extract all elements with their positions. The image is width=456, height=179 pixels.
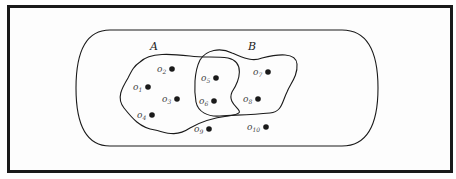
point-o3-label: o3	[162, 94, 171, 105]
point-o6-label: o6	[199, 96, 208, 107]
points-group: o1o2o3o4o5o6o7o8o9o10	[133, 64, 271, 135]
point-o10-dot	[263, 124, 269, 130]
point-o8-subscript: 8	[248, 98, 252, 105]
point-o8-label: o8	[243, 94, 252, 105]
point-o2-dot	[169, 66, 175, 72]
point-o6-subscript: 6	[204, 100, 208, 107]
set-b-label: B	[247, 40, 256, 53]
point-o9-dot	[206, 126, 212, 132]
point-o5-subscript: 5	[206, 77, 210, 84]
point-o7-dot	[265, 69, 271, 75]
point-o7-subscript: 7	[258, 71, 262, 78]
venn-diagram: A B o1o2o3o4o5o6o7o8o9o10	[0, 0, 456, 179]
point-o10-subscript: 10	[252, 126, 260, 133]
point-o7-label: o7	[253, 67, 262, 78]
point-o3-subscript: 3	[167, 98, 171, 105]
point-o4-subscript: 4	[141, 114, 146, 121]
point-o4-label: o4	[137, 110, 146, 121]
point-o4-dot	[149, 112, 155, 118]
point-o5-dot	[213, 75, 219, 81]
point-o1-dot	[145, 84, 151, 90]
set-a-boundary	[120, 54, 239, 133]
point-o3-dot	[174, 96, 180, 102]
point-o6-dot	[211, 98, 217, 104]
universe-boundary	[76, 30, 378, 146]
point-o1-subscript: 1	[138, 86, 142, 93]
point-o9-label: o9	[194, 124, 203, 135]
point-o5-label: o5	[201, 73, 210, 84]
point-o8-dot	[255, 96, 261, 102]
set-a-label: A	[149, 40, 158, 53]
point-o2-label: o2	[157, 64, 166, 75]
point-o2-subscript: 2	[161, 68, 166, 75]
point-o1-label: o1	[133, 82, 142, 93]
point-o10-label: o10	[247, 122, 260, 133]
point-o9-subscript: 9	[199, 128, 203, 135]
